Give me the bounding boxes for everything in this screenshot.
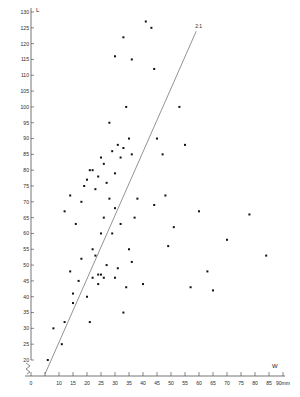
y-axis-break-icon: [26, 363, 30, 374]
y-tick-label: 65: [23, 215, 29, 221]
data-point: [117, 267, 119, 269]
data-point: [153, 204, 155, 206]
data-point: [64, 321, 66, 323]
data-point: [69, 194, 71, 196]
data-point: [92, 248, 94, 250]
x-tick-label: 30: [112, 380, 118, 386]
data-point: [61, 343, 63, 345]
data-point: [86, 179, 88, 181]
x-axis-tick-labels: 01015202530354045505560657075808590mm: [30, 380, 291, 386]
y-tick-label: 20: [23, 357, 29, 363]
data-point: [75, 223, 77, 225]
x-tick-label: 70: [224, 380, 230, 386]
data-point: [114, 207, 116, 209]
data-point: [47, 359, 49, 361]
data-point: [100, 232, 102, 234]
data-point: [150, 27, 152, 29]
data-point: [111, 150, 113, 152]
x-axis-title: W: [272, 363, 278, 369]
data-point: [120, 157, 122, 159]
data-point: [131, 153, 133, 155]
data-point: [114, 277, 116, 279]
y-tick-label: 80: [23, 167, 29, 173]
x-tick-label: 55: [182, 380, 188, 386]
data-point: [80, 201, 82, 203]
data-point: [120, 223, 122, 225]
y-axis-group: 2025303540455055606570758085909510010511…: [21, 7, 41, 374]
x-axis-ticks: [31, 372, 283, 376]
data-point: [162, 153, 164, 155]
y-tick-label: 40: [23, 294, 29, 300]
x-tick-label: 90mm: [276, 380, 290, 386]
data-point: [106, 182, 108, 184]
data-point: [108, 198, 110, 200]
y-axis-ticks: [31, 12, 34, 360]
y-tick-label: 125: [21, 25, 30, 31]
y-tick-label: 110: [21, 72, 29, 78]
data-point: [97, 283, 99, 285]
y-tick-label: 85: [23, 151, 29, 157]
data-point: [136, 198, 138, 200]
y-tick-label: 95: [23, 120, 29, 126]
x-tick-label: 15: [70, 380, 76, 386]
y-tick-label: 115: [21, 56, 29, 62]
data-point: [80, 258, 82, 260]
data-point: [128, 138, 130, 140]
data-point: [72, 293, 74, 295]
data-point: [103, 217, 105, 219]
data-point: [117, 144, 119, 146]
x-tick-label: 50: [168, 380, 174, 386]
x-tick-label: 45: [154, 380, 160, 386]
data-point: [122, 36, 124, 38]
data-point: [83, 185, 85, 187]
data-point: [103, 277, 105, 279]
x-tick-label: 85: [266, 380, 272, 386]
data-point: [131, 58, 133, 60]
scatter-plot-figure: 2025303540455055606570758085909510010511…: [0, 0, 300, 397]
reference-line-label: 2:1: [195, 23, 202, 29]
y-tick-label: 100: [21, 104, 30, 110]
data-points-layer: [47, 20, 267, 361]
data-point: [190, 286, 192, 288]
reference-line-group: 2:1: [45, 23, 202, 374]
x-tick-label: 60: [196, 380, 202, 386]
x-axis-group: 01015202530354045505560657075808590mm W: [25, 363, 290, 386]
data-point: [145, 20, 147, 22]
data-point: [86, 296, 88, 298]
data-point: [131, 261, 133, 263]
y-tick-label: 55: [23, 246, 29, 252]
data-point: [248, 213, 250, 215]
x-tick-label: 75: [238, 380, 244, 386]
y-tick-label: 35: [23, 309, 29, 315]
x-tick-label: 25: [98, 380, 104, 386]
data-point: [156, 138, 158, 140]
data-point: [92, 169, 94, 171]
data-point: [94, 255, 96, 257]
data-point: [114, 172, 116, 174]
data-point: [173, 226, 175, 228]
data-point: [178, 106, 180, 108]
y-tick-label: 50: [23, 262, 29, 268]
y-tick-label: 75: [23, 183, 29, 189]
data-point: [128, 248, 130, 250]
y-tick-label: 45: [23, 278, 29, 284]
data-point: [89, 169, 91, 171]
x-tick-label: 65: [210, 380, 216, 386]
data-point: [92, 277, 94, 279]
data-point: [226, 239, 228, 241]
data-point: [184, 144, 186, 146]
data-point: [78, 280, 80, 282]
x-tick-label: 80: [252, 380, 258, 386]
reference-line: [45, 31, 196, 374]
y-tick-label: 30: [23, 325, 29, 331]
data-point: [52, 327, 54, 329]
data-point: [64, 210, 66, 212]
data-point: [212, 289, 214, 291]
data-point: [265, 255, 267, 257]
y-tick-label: 60: [23, 230, 29, 236]
data-point: [69, 270, 71, 272]
data-point: [94, 188, 96, 190]
x-tick-label: 10: [56, 380, 62, 386]
data-point: [103, 163, 105, 165]
y-tick-label: 90: [23, 135, 29, 141]
